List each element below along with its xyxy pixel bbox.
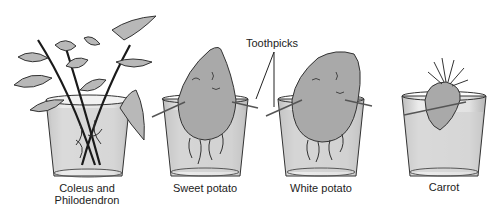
propagation-diagram: Toothpicks Coleus and Philodendron Sweet…: [0, 0, 504, 210]
toothpicks-callout-lines: [256, 52, 274, 107]
sweet-potato-label: Sweet potato: [160, 182, 250, 194]
coleus-label-line2: Philodendron: [42, 194, 132, 206]
coleus-philodendron-label: Coleus and Philodendron: [42, 182, 132, 206]
coleus-label-line1: Coleus and: [42, 182, 132, 194]
toothpicks-label: Toothpicks: [246, 37, 298, 49]
sweet-potato-tuber: [178, 47, 236, 140]
carrot-label: Carrot: [400, 181, 488, 193]
diagram-art: [0, 0, 504, 210]
white-potato-label: White potato: [276, 182, 366, 194]
coleus-philodendron-glass: [46, 95, 130, 177]
